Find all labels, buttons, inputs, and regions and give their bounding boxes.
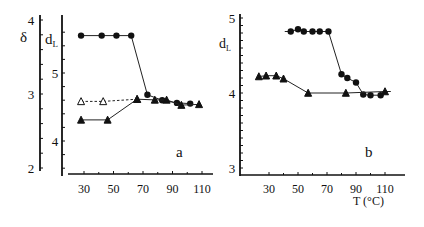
circle-marker <box>367 92 373 98</box>
x-tick-label: 70 <box>137 182 149 196</box>
series-line <box>291 29 381 95</box>
delta-axis-title: δ <box>20 29 27 45</box>
delta-tick-label: 4 <box>28 13 35 28</box>
delta-tick-label: 2 <box>28 161 35 176</box>
triangle-marker <box>280 75 287 82</box>
dl-tick-label-b: 4 <box>229 86 236 101</box>
x-tick-label: 50 <box>108 182 120 196</box>
x-tick-label-b: 50 <box>292 182 304 196</box>
x-tick-label-b: 30 <box>263 182 275 196</box>
figure-canvas: 4325430507090110 δ dL a 54330507090110 d… <box>0 0 424 227</box>
x-tick-label: 30 <box>78 182 90 196</box>
series-line <box>81 99 137 101</box>
series-line <box>81 36 190 104</box>
x-tick-label: 90 <box>167 182 179 196</box>
dl-axis-title-b: dL <box>219 36 231 53</box>
circle-marker <box>325 28 331 34</box>
circle-marker <box>353 79 359 85</box>
panel-b-data <box>255 26 390 98</box>
dl-axis-title: dL <box>45 31 58 49</box>
circle-marker <box>317 28 323 34</box>
circle-marker <box>309 28 315 34</box>
delta-tick-label: 3 <box>28 87 35 102</box>
panel-a: 4325430507090110 δ dL a <box>20 13 213 196</box>
circle-marker <box>187 100 193 106</box>
circle-marker <box>128 32 134 38</box>
circle-marker <box>288 28 294 34</box>
x-axis-title: T (°C) <box>353 194 384 208</box>
circle-marker <box>301 28 307 34</box>
panel-b: 54330507090110 dL b <box>219 11 405 196</box>
circle-marker <box>113 32 119 38</box>
circle-marker <box>344 75 350 81</box>
dl-tick-label: 4 <box>52 134 59 149</box>
panel-b-axes: 54330507090110 <box>229 11 405 196</box>
circle-marker <box>295 26 301 32</box>
circle-marker <box>99 32 105 38</box>
panel-label-b: b <box>365 144 373 160</box>
circle-marker <box>338 71 344 77</box>
circle-marker <box>78 32 84 38</box>
panel-label-a: a <box>176 144 183 160</box>
panel-a-data <box>78 32 203 123</box>
dl-tick-label: 5 <box>52 66 59 81</box>
circle-marker <box>144 92 150 98</box>
x-tick-label-b: 70 <box>321 182 333 196</box>
dl-tick-label-b: 3 <box>229 161 236 176</box>
dl-tick-label-b: 5 <box>229 11 236 26</box>
x-tick-label: 110 <box>193 182 211 196</box>
